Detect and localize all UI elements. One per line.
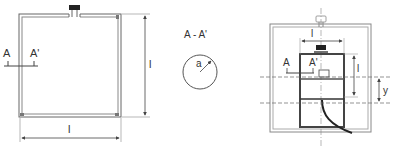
cross-section-figure: A - A' a (183, 29, 217, 89)
radius-label: a (196, 58, 202, 69)
square-loop-figure: A A' l l (3, 5, 151, 142)
section-label-a-prime-right: A' (309, 57, 318, 68)
section-label-a-prime: A' (30, 47, 39, 59)
sensor-icon (319, 70, 329, 77)
enclosure-figure: l l y A A' (260, 8, 392, 146)
radius-arrow (200, 61, 211, 72)
section-label-a-right: A (283, 57, 290, 68)
cable (322, 100, 352, 133)
section-title: A - A' (184, 29, 207, 40)
connector-icon (69, 5, 80, 10)
height-dimension-label: l (149, 58, 151, 70)
loop-height-label: l (357, 63, 359, 74)
offset-label: y (383, 85, 388, 96)
loop-connector-icon (316, 45, 326, 50)
section-label-a: A (3, 47, 11, 59)
loop-width-label: l (311, 28, 313, 39)
technical-diagram: A A' l l A - A' a (0, 0, 405, 146)
enclosure-outer (270, 24, 371, 132)
width-dimension-label: l (68, 123, 70, 135)
loop-box (300, 54, 344, 127)
